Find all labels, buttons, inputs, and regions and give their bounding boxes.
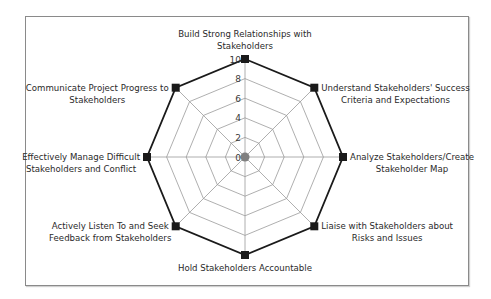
tick-label-8: 8 <box>235 74 241 84</box>
data-marker-square-icon <box>241 251 249 259</box>
axis-label-3: Liaise with Stakeholders aboutRisks and … <box>321 221 453 243</box>
axis-label-6: Effectively Manage DifficultStakeholders… <box>22 152 140 174</box>
center-dot-icon <box>241 153 250 162</box>
axis-label-1: Understand Stakeholders' SuccessCriteria… <box>321 83 470 105</box>
radar-chart: 0246810 Build Strong Relationships withS… <box>0 0 491 299</box>
tick-label-2: 2 <box>235 133 241 143</box>
tick-label-10: 10 <box>230 55 242 65</box>
axis-label-7: Communicate Project Progress toStakehold… <box>26 83 169 105</box>
axis-labels: Build Strong Relationships withStakehold… <box>22 29 474 273</box>
scale-tick-labels: 0246810 <box>230 55 242 163</box>
tick-label-0: 0 <box>235 153 241 163</box>
tick-label-4: 4 <box>235 113 241 123</box>
data-marker-square-icon <box>143 153 151 161</box>
data-marker-square-icon <box>310 222 318 230</box>
tick-label-6: 6 <box>235 94 241 104</box>
data-marker-square-icon <box>172 222 180 230</box>
axis-label-2: Analyze Stakeholders/CreateStakeholder M… <box>350 152 474 174</box>
axis-label-4: Hold Stakeholders Accountable <box>178 263 312 273</box>
data-marker-square-icon <box>241 55 249 63</box>
axis-label-0: Build Strong Relationships withStakehold… <box>178 29 312 51</box>
data-marker-square-icon <box>310 84 318 92</box>
data-marker-square-icon <box>339 153 347 161</box>
axis-label-5: Actively Listen To and SeekFeedback from… <box>49 221 172 243</box>
data-marker-square-icon <box>172 84 180 92</box>
center-dot <box>241 153 250 162</box>
